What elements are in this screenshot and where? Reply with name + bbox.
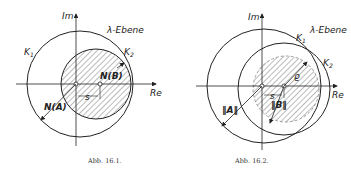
im-label: Im xyxy=(248,12,260,22)
plane-label: λ-Ebene xyxy=(106,25,144,35)
k1-label: K1 xyxy=(296,33,306,44)
na-label: N(A) xyxy=(44,102,67,112)
point-nb xyxy=(98,82,102,86)
k1-label: K1 xyxy=(24,47,34,58)
figure-16-1: Im Re λ-Ebene K1 K2 N(B) N(A) s Abb. 16.… xyxy=(16,11,162,165)
hatched-region xyxy=(253,56,319,122)
k2-label: K2 xyxy=(323,58,333,69)
plane-label: λ-Ebene xyxy=(309,25,347,35)
caption-16-1: Abb. 16.1. xyxy=(87,157,122,165)
s-label: s xyxy=(85,92,90,102)
b-norm-label: ‖B‖ xyxy=(271,100,287,110)
re-label: Re xyxy=(332,90,344,100)
k2-label: K2 xyxy=(124,47,134,58)
a-norm-label: ‖A‖ xyxy=(222,105,238,115)
im-label: Im xyxy=(62,11,74,21)
rho-label: ϱ xyxy=(294,71,300,81)
diagram-canvas: Im Re λ-Ebene K1 K2 N(B) N(A) s Abb. 16.… xyxy=(0,0,351,172)
re-label: Re xyxy=(150,88,162,98)
figure-16-2: Im Re λ-Ebene K1 K2 ϱ s ‖A‖ ‖B‖ Abb. 16.… xyxy=(196,12,347,165)
caption-16-2: Abb. 16.2. xyxy=(234,157,269,165)
nb-label: N(B) xyxy=(100,71,123,81)
